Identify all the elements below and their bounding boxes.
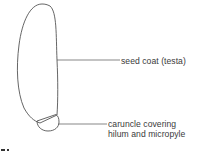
caruncle-label-line1: caruncle covering — [108, 119, 185, 129]
caruncle-label-line2: hilum and micropyle — [108, 129, 185, 139]
caruncle-label: caruncle covering hilum and micropyle — [108, 119, 185, 139]
clipped-caption-fragment — [1, 149, 15, 152]
seed-body-outline — [17, 4, 57, 123]
seed-coat-label: seed coat (testa) — [121, 56, 186, 66]
